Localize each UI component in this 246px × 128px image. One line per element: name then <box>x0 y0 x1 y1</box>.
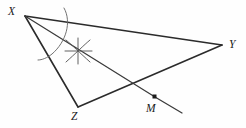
geometry-figure: X Y Z M <box>0 0 246 128</box>
segment-bisector-extension <box>155 97 182 113</box>
vertex-label-X: X <box>8 6 15 18</box>
vertex-label-Y: Y <box>229 39 235 51</box>
segment-XY <box>25 16 222 45</box>
point-marker-M <box>153 95 157 99</box>
figure-canvas <box>0 0 246 128</box>
vertex-label-Z: Z <box>71 111 77 123</box>
segment-bisector-XM <box>25 16 155 97</box>
segment-XZ <box>25 16 78 107</box>
point-label-M: M <box>146 103 156 115</box>
segment-ZY <box>78 45 222 107</box>
